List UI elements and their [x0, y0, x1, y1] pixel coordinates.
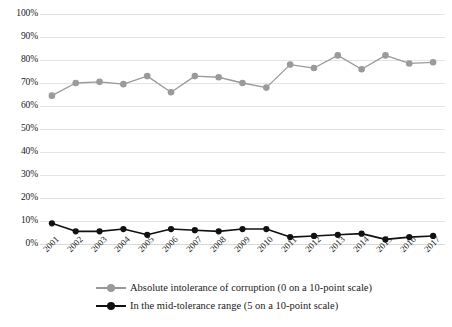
data-point: [96, 79, 103, 86]
data-point: [358, 66, 365, 73]
data-point: [382, 52, 389, 59]
data-point: [311, 65, 318, 72]
legend-item-mid-tolerance: In the mid-tolerance range (5 on a 10-po…: [0, 297, 452, 315]
series-absolute-intolerance: [49, 52, 437, 99]
data-point: [120, 226, 126, 232]
legend-marker-icon: [96, 282, 126, 294]
data-point: [406, 60, 413, 67]
data-point: [239, 80, 246, 87]
chart-legend: Absolute intolerance of corruption (0 on…: [0, 279, 452, 315]
legend-marker-icon: [96, 300, 126, 312]
legend-label: Absolute intolerance of corruption (0 on…: [130, 282, 372, 294]
data-point: [120, 81, 127, 88]
data-point: [168, 89, 175, 96]
data-point: [192, 227, 198, 233]
data-point: [334, 52, 341, 59]
legend-item-absolute-intolerance: Absolute intolerance of corruption (0 on…: [0, 279, 452, 297]
data-point: [263, 226, 269, 232]
data-point: [144, 73, 151, 80]
data-point: [49, 92, 56, 99]
data-point: [239, 226, 245, 232]
data-point: [430, 59, 437, 66]
data-point: [215, 74, 222, 81]
data-point: [287, 61, 294, 68]
line-chart: 100% 90% 80% 70% 60% 50% 40% 30% 20% 10%…: [0, 0, 452, 327]
data-point: [192, 73, 199, 80]
data-point: [263, 84, 270, 91]
data-point: [72, 80, 79, 87]
data-point: [168, 226, 174, 232]
legend-label: In the mid-tolerance range (5 on a 10-po…: [130, 300, 338, 312]
series-line: [52, 55, 433, 95]
data-point: [49, 220, 55, 226]
